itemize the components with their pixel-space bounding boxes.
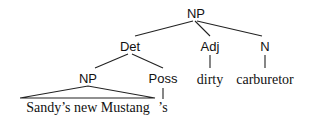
edge-det-poss [132,54,163,68]
edge-np-n [197,21,262,36]
leaf-dirty: dirty [197,72,223,87]
node-poss: Poss [149,71,178,86]
leaf-possessive-s: ’s [158,100,167,115]
leaf-carburetor: carburetor [236,72,294,87]
node-adj: Adj [201,39,220,54]
leaf-sandys-new-mustang: Sandy’s new Mustang [26,100,150,115]
node-det: Det [120,39,141,54]
node-np-child: NP [79,71,97,86]
syntax-tree: NP Det Adj N NP Poss dirty carburetor Sa… [0,0,309,121]
edge-det-np [95,54,128,68]
node-np-root: NP [187,6,205,21]
edge-np-det [135,21,193,36]
node-n: N [260,39,269,54]
triangle-np [20,86,155,98]
